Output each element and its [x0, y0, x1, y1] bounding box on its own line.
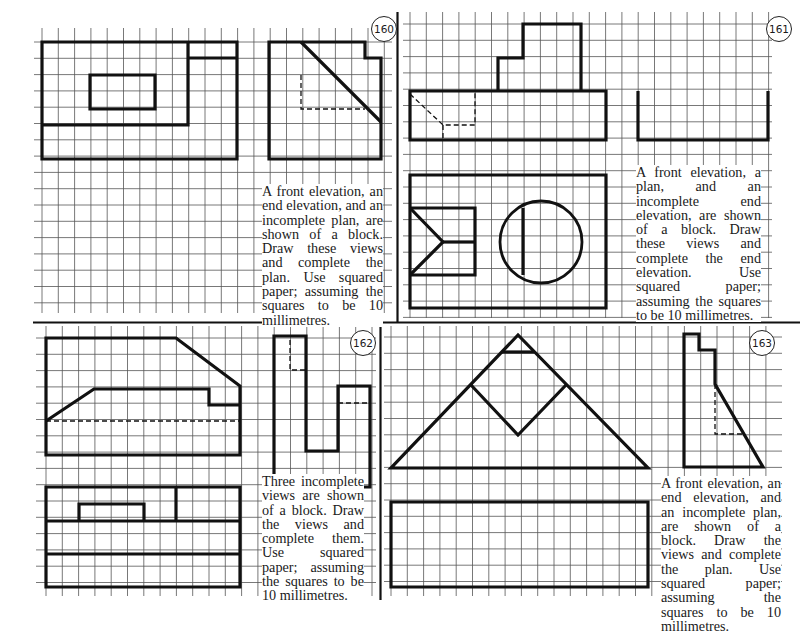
- exercise-160-instructions: A front elevation, an end elevation, and…: [262, 184, 383, 327]
- exercise-161-instructions: A front elevation, a plan, and an incomp…: [636, 165, 761, 322]
- exercise-number-badge-160: 160: [371, 16, 397, 42]
- exercise-162-instructions: Three incomplete views are shown of a bl…: [262, 474, 364, 603]
- exercise-number-badge-161: 161: [766, 16, 792, 42]
- exercise-number-badge-163: 163: [749, 330, 775, 356]
- exercise-number-badge-162: 162: [350, 330, 376, 356]
- exercise-163-instructions: A front elevation, an end elevation, and…: [661, 476, 781, 633]
